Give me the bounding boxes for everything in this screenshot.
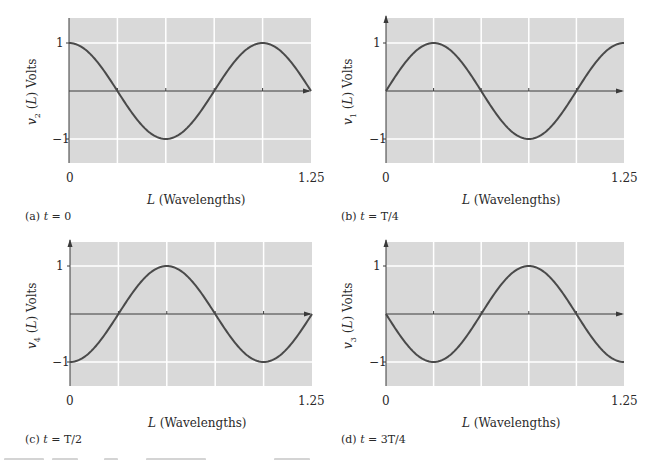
- panel-caption-b: (b) t = T/4: [341, 211, 399, 222]
- xtick-left-b: 0: [382, 172, 390, 184]
- caption-prefix: (a): [25, 210, 44, 223]
- y-units: ) Volts: [25, 282, 39, 320]
- ytick-bottom-d: −1: [369, 356, 387, 368]
- y-paren: (: [25, 329, 39, 338]
- ytick-top-d: 1: [373, 260, 381, 272]
- y-L: L: [25, 321, 39, 329]
- ytick-bottom-c: −1: [52, 356, 70, 368]
- x-units: (Wavelengths): [470, 416, 561, 430]
- y-axis-label-d: v3 (L) Volts: [342, 266, 357, 366]
- y-sub: 3: [349, 337, 358, 342]
- y-sub: 2: [33, 113, 42, 118]
- caption-eq: = 3T/4: [365, 433, 406, 446]
- y-var: v: [25, 118, 39, 125]
- x-L: L: [462, 193, 470, 207]
- ytick-top-b: 1: [373, 37, 381, 49]
- xtick-right-c: 1.25: [298, 395, 325, 407]
- y-L: L: [341, 321, 355, 329]
- y-units: ) Volts: [25, 58, 39, 96]
- panel-caption-d: (d) t = 3T/4: [341, 434, 406, 445]
- y-paren: (: [25, 105, 39, 114]
- y-sub: 1: [349, 113, 358, 118]
- y-paren: (: [341, 105, 355, 114]
- y-paren: (: [341, 329, 355, 338]
- xtick-right-d: 1.25: [611, 395, 638, 407]
- x-units: (Wavelengths): [470, 193, 561, 207]
- x-units: (Wavelengths): [155, 193, 246, 207]
- x-axis-label-a: L (Wavelengths): [147, 194, 246, 206]
- x-axis-label-b: L (Wavelengths): [462, 194, 561, 206]
- caption-eq: = T/4: [365, 210, 399, 223]
- caption-prefix: (b): [341, 210, 360, 223]
- panel-caption-a: (a) t = 0: [25, 211, 71, 222]
- panel-caption-c: (c) t = T/2: [25, 434, 82, 445]
- xtick-right-b: 1.25: [611, 172, 638, 184]
- panel-a: v2 (L) Volts 1 −1 0 1.25 L (Wavelengths)…: [0, 0, 324, 230]
- x-L: L: [147, 193, 155, 207]
- panel-d: v3 (L) Volts 1 −1 0 1.25 L (Wavelengths)…: [324, 230, 648, 460]
- y-sub: 4: [33, 337, 42, 342]
- x-L: L: [462, 416, 470, 430]
- caption-eq: = T/2: [48, 433, 82, 446]
- caption-prefix: (d): [341, 433, 360, 446]
- ytick-top-c: 1: [56, 260, 64, 272]
- x-units: (Wavelengths): [156, 416, 247, 430]
- ytick-top-a: 1: [56, 37, 64, 49]
- xtick-left-a: 0: [66, 172, 74, 184]
- caption-eq: = 0: [48, 210, 71, 223]
- x-axis-label-d: L (Wavelengths): [462, 417, 561, 429]
- y-units: ) Volts: [341, 58, 355, 96]
- x-L: L: [148, 416, 156, 430]
- y-units: ) Volts: [341, 282, 355, 320]
- x-axis-label-c: L (Wavelengths): [148, 417, 247, 429]
- ytick-bottom-a: −1: [52, 133, 70, 145]
- y-L: L: [341, 97, 355, 105]
- panel-b: v1 (L) Volts 1 −1 0 1.25 L (Wavelengths)…: [324, 0, 648, 230]
- xtick-left-d: 0: [382, 395, 390, 407]
- xtick-right-a: 1.25: [298, 172, 325, 184]
- figure-caption-truncated: [0, 449, 648, 460]
- y-axis-label-a: v2 (L) Volts: [26, 42, 41, 142]
- y-var: v: [341, 118, 355, 125]
- ytick-bottom-b: −1: [369, 133, 387, 145]
- panel-c: v4 (L) Volts 1 −1 0 1.25 L (Wavelengths)…: [0, 230, 324, 460]
- y-var: v: [25, 342, 39, 349]
- y-L: L: [25, 97, 39, 105]
- y-axis-label-b: v1 (L) Volts: [342, 42, 357, 142]
- y-var: v: [341, 342, 355, 349]
- y-axis-label-c: v4 (L) Volts: [26, 266, 41, 366]
- xtick-left-c: 0: [66, 395, 74, 407]
- caption-prefix: (c): [25, 433, 43, 446]
